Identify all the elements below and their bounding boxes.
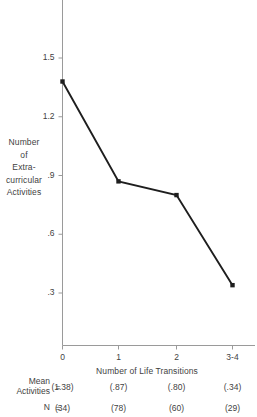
summary-table: MeanActivities=(1.38)(.87)(.80)(.34)N=(3… [0,378,257,417]
x-axis-tick-label: 3-4 [218,352,248,362]
data-point-marker [230,283,234,287]
y-axis-title-line: Number [1,136,47,149]
data-point-marker [174,193,178,197]
table-cell: (34) [41,403,85,413]
data-point-marker [60,79,64,83]
table-cell: (.34) [211,382,255,392]
x-axis-title: Number of Life Transitions [62,366,232,376]
table-cell: (78) [97,403,141,413]
y-axis-tick-label: .9 [29,170,55,180]
table-row: MeanActivities=(1.38)(.87)(.80)(.34) [0,378,257,396]
data-point-marker [116,179,120,183]
table-cell: (1.38) [41,382,85,392]
data-series-line [63,82,233,286]
table-cell: (.80) [155,382,199,392]
x-axis-tick-label: 0 [48,352,78,362]
y-axis-tick-label: .6 [29,228,55,238]
y-axis-title: NumberofExtra-curricularActivities [1,136,47,199]
table-cell: (60) [155,403,199,413]
y-axis-tick-label: 1.5 [29,52,55,62]
table-cell: (29) [211,403,255,413]
chart-figure: NumberofExtra-curricularActivities Numbe… [0,0,257,417]
y-axis-tick-label: 1.2 [29,111,55,121]
x-axis-tick-label: 2 [162,352,192,362]
y-axis-ticks [59,58,63,293]
y-axis-tick-label: .3 [29,287,55,297]
table-cell: (.87) [97,382,141,392]
x-axis-ticks [63,346,233,350]
x-axis-tick-label: 1 [104,352,134,362]
y-axis-title-line: Activities [1,186,47,199]
data-point-markers [60,79,234,287]
y-axis-title-line: of [1,149,47,162]
table-row: N=(34)(78)(60)(29) [0,399,257,417]
